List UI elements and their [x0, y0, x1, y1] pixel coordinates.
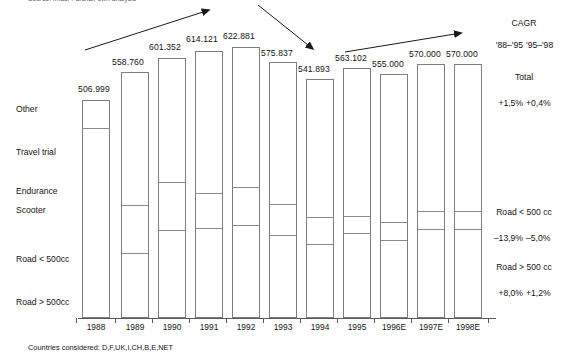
segment-divider	[270, 235, 296, 236]
segment-divider	[196, 193, 222, 194]
x-axis-tick	[374, 318, 375, 323]
x-axis-tick	[300, 318, 301, 323]
x-axis-year-label: 1992	[226, 322, 266, 332]
bar-value-label: 555.000	[372, 59, 404, 69]
stacked-column[interactable]	[380, 74, 408, 318]
x-axis-year-label: 1996E	[374, 322, 414, 332]
segment-divider	[455, 211, 481, 212]
segment-divider	[233, 225, 259, 226]
stacked-column[interactable]	[306, 79, 334, 318]
stacked-column[interactable]	[82, 100, 110, 318]
segment-divider	[233, 187, 259, 188]
x-axis-year-label: 1998E	[448, 322, 488, 332]
segment-divider	[344, 233, 370, 234]
category-label-travel-trial: Travel trial	[16, 147, 56, 157]
cagr-row-v2-1: –5,0%	[526, 233, 568, 243]
x-axis-tick	[488, 318, 489, 323]
segment-divider	[83, 128, 109, 129]
stacked-column[interactable]	[158, 58, 186, 318]
x-axis-line	[78, 318, 496, 319]
bar-value-label: 558.760	[112, 57, 144, 67]
x-axis-tick	[226, 318, 227, 323]
stacked-column[interactable]	[269, 62, 297, 318]
x-axis-year-label: 1991	[189, 322, 229, 332]
x-axis-tick	[448, 318, 449, 323]
x-axis-tick	[115, 318, 116, 323]
cagr-row-v1-1: –13,9%	[481, 233, 523, 243]
x-axis-tick	[263, 318, 264, 323]
x-axis-tick	[76, 318, 77, 323]
cagr-period-1: '88–'95	[481, 40, 523, 50]
category-label-scooter: Scooter	[16, 205, 46, 215]
cagr-row-v1-0: +1,5%	[481, 98, 523, 108]
segment-divider	[455, 229, 481, 230]
stacked-column[interactable]	[417, 64, 445, 318]
stacked-column[interactable]	[121, 72, 149, 318]
cagr-period-2: '95–'98	[526, 40, 568, 50]
bar-value-label: 570.000	[409, 49, 441, 59]
stacked-column[interactable]	[232, 47, 260, 318]
stacked-column[interactable]	[454, 64, 482, 318]
bar-value-label: 622.881	[223, 31, 255, 41]
segment-divider	[122, 205, 148, 206]
cagr-row-v1-2: +8,0%	[481, 288, 523, 298]
x-axis-year-label: 1988	[76, 322, 116, 332]
category-label-road-500cc: Road > 500cc	[16, 297, 69, 307]
x-axis-year-label: 1994	[300, 322, 340, 332]
segment-divider	[418, 229, 444, 230]
x-axis-tick	[189, 318, 190, 323]
category-label-other: Other	[16, 104, 38, 114]
x-axis-year-label: 1995	[337, 322, 377, 332]
segment-divider	[344, 216, 370, 217]
cagr-row-v2-0: +0,4%	[526, 98, 568, 108]
bar-value-label: 563.102	[335, 53, 367, 63]
segment-divider	[270, 204, 296, 205]
bar-value-label: 541.893	[298, 64, 330, 74]
bar-value-label: 506.999	[78, 84, 110, 94]
x-axis-year-label: 1990	[152, 322, 192, 332]
x-axis-year-label: 1997E	[411, 322, 451, 332]
segment-divider	[159, 182, 185, 183]
segment-divider	[196, 228, 222, 229]
bar-value-label: 601.352	[149, 42, 181, 52]
segment-divider	[381, 240, 407, 241]
x-axis-tick	[152, 318, 153, 323]
segment-divider	[159, 230, 185, 231]
cagr-title: CAGR	[481, 18, 567, 28]
cagr-row-label-0: Total	[481, 72, 567, 82]
bar-value-label: 570.000	[446, 49, 478, 59]
segment-divider	[418, 211, 444, 212]
source-note: Source: Imas, Parsifal, own analysis	[28, 0, 136, 2]
footnote: Countries considered: D,F,UK,I,CH,B,E,NE…	[28, 343, 173, 352]
stacked-column[interactable]	[195, 51, 223, 318]
segment-divider	[122, 253, 148, 254]
stacked-column[interactable]	[343, 68, 371, 318]
x-axis-year-label: 1989	[115, 322, 155, 332]
cagr-row-v2-2: +1,2%	[526, 288, 568, 298]
bar-value-label: 575.837	[261, 48, 293, 58]
cagr-row-label-2: Road > 500 cc	[481, 262, 567, 272]
segment-divider	[381, 222, 407, 223]
x-axis-tick	[411, 318, 412, 323]
x-axis-year-label: 1993	[263, 322, 303, 332]
category-label-road-500cc: Road < 500cc	[16, 254, 69, 264]
x-axis-tick	[337, 318, 338, 323]
cagr-row-label-1: Road < 500 cc	[481, 207, 567, 217]
segment-divider	[307, 244, 333, 245]
category-label-endurance: Endurance	[16, 186, 58, 196]
bar-value-label: 614.121	[186, 34, 218, 44]
segment-divider	[307, 217, 333, 218]
